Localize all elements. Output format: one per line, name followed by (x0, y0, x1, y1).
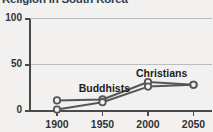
data-point-marker (54, 97, 60, 103)
y-tick-label: 100 (5, 12, 22, 23)
data-point-marker (99, 99, 105, 105)
y-tick-label: 50 (11, 58, 22, 69)
x-tick-label: 2000 (136, 118, 159, 130)
series-label-buddhists: Buddhists (79, 82, 130, 94)
x-tick-label: 1950 (91, 118, 114, 130)
x-tick-label: 1900 (45, 118, 68, 130)
series-label-christians: Christians (136, 67, 187, 79)
chart-container: Religion in South Korea 050100 190019502… (0, 0, 212, 132)
x-tick-label: 2050 (182, 118, 205, 130)
data-point-marker (190, 82, 196, 88)
y-tick-label: 0 (16, 104, 22, 115)
gridlines-group (30, 19, 213, 65)
data-point-marker (54, 106, 60, 112)
data-point-marker (145, 83, 151, 89)
plot-area: 050100 1900195020002050 BuddhistsChristi… (0, 0, 212, 132)
